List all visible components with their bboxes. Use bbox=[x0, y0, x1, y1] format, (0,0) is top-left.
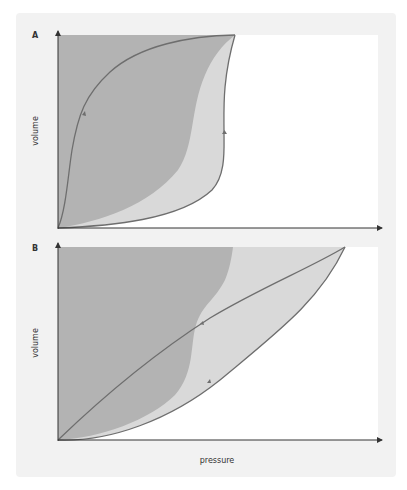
x-axis-label-b: pressure bbox=[200, 456, 235, 465]
y-axis-label-b: volume bbox=[31, 328, 40, 358]
panel-label-a: A bbox=[32, 31, 39, 40]
y-axis-label-a: volume bbox=[31, 116, 40, 146]
chart-b: B volume pressure bbox=[31, 243, 382, 465]
panel-label-b: B bbox=[32, 244, 38, 253]
figure-svg: A volume B volume p bbox=[0, 0, 407, 490]
chart-a: A volume bbox=[31, 31, 382, 229]
